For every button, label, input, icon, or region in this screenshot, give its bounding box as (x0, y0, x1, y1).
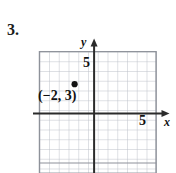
graph-figure: 3. (0, 0, 176, 173)
x-axis-label: x (164, 116, 170, 128)
point-coordinate-label: (−2, 3) (38, 89, 76, 103)
grid-and-axes (0, 0, 176, 173)
y-axis-tick-label-5: 5 (83, 56, 90, 70)
y-axis-label: y (81, 36, 86, 48)
x-axis-tick-label-5: 5 (139, 114, 146, 128)
plotted-point (72, 81, 78, 87)
y-axis-arrowhead (91, 39, 98, 47)
coordinate-plane: 5 5 y x (−2, 3) (0, 0, 176, 173)
